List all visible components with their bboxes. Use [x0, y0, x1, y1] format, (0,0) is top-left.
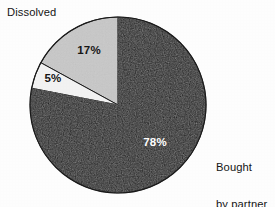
callout-label-bought-line2: by partner — [216, 198, 267, 207]
callout-label-bought-by-partner: Bought by partner — [216, 136, 267, 207]
slice-value-small: 5% — [44, 72, 61, 84]
callout-label-dissolved: Dissolved — [7, 6, 56, 18]
callout-label-bought-line1: Bought — [216, 161, 267, 173]
pie-chart-figure: 78% 5% 17% Dissolved Bought by partner — [0, 0, 275, 207]
slice-value-dissolved: 17% — [77, 44, 101, 56]
slice-value-bought: 78% — [143, 136, 167, 148]
